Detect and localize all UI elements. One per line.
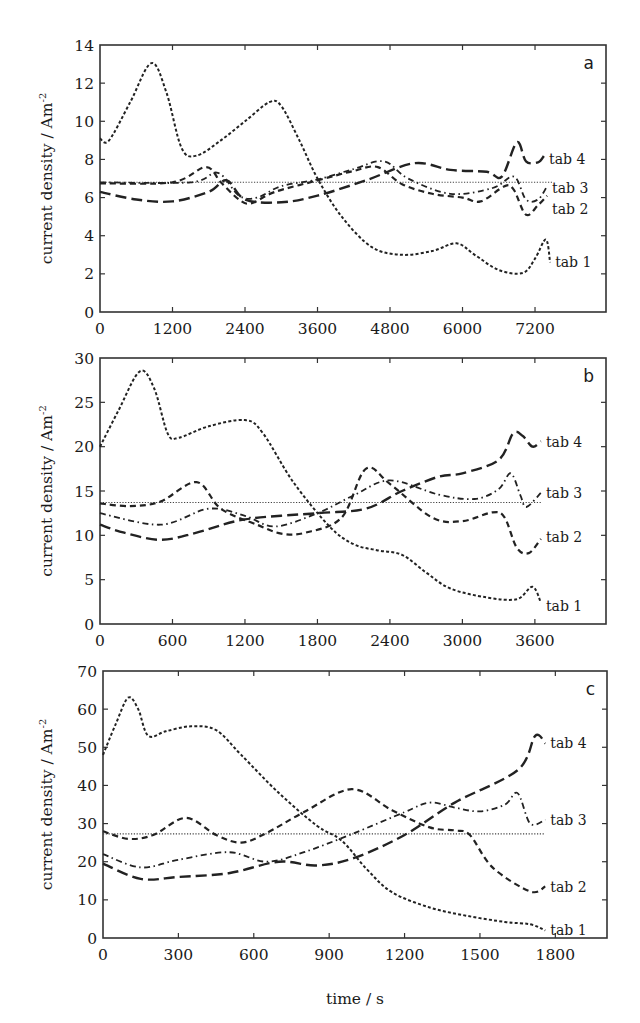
x-tick-label: 7200 <box>515 320 554 338</box>
x-tick-label: 900 <box>314 946 344 964</box>
series-label: tab 4 <box>550 735 586 751</box>
x-tick-label: 3600 <box>298 320 337 338</box>
x-tick-label: 0 <box>95 320 105 338</box>
x-tick-label: 1200 <box>153 320 192 338</box>
x-tick-label: 6000 <box>443 320 482 338</box>
series-tab-2 <box>100 467 541 553</box>
y-tick-label: 20 <box>77 853 97 871</box>
series-tab-1 <box>103 697 545 930</box>
y-tick-label: 10 <box>77 891 97 909</box>
series-label: tab 1 <box>550 922 586 938</box>
series-label: tab 1 <box>546 598 582 614</box>
series-label: tab 1 <box>555 254 591 270</box>
y-tick-label: 15 <box>74 483 94 501</box>
panel-b: 060012001800240030003600051015202530curr… <box>37 350 606 651</box>
y-tick-label: 30 <box>74 350 94 368</box>
y-tick-label: 14 <box>74 37 94 55</box>
y-tick-label: 8 <box>84 151 94 169</box>
y-tick-label: 6 <box>84 189 94 207</box>
y-tick-label: 10 <box>74 113 94 131</box>
plot-frame <box>100 358 606 624</box>
x-tick-label: 2400 <box>370 632 409 650</box>
x-axis-title: time / s <box>326 990 384 1008</box>
series-label: tab 3 <box>550 812 586 828</box>
series-label: tab 4 <box>546 434 582 450</box>
x-tick-label: 1800 <box>298 632 337 650</box>
y-tick-label: 70 <box>77 663 97 681</box>
y-tick-label: 0 <box>84 304 94 322</box>
y-axis-title: current density / Am-2 <box>37 719 56 891</box>
plot-frame <box>103 671 607 938</box>
panel-a: 012002400360048006000720002468101214curr… <box>37 37 606 339</box>
series-tab-4 <box>103 735 545 880</box>
series-label: tab 2 <box>550 879 586 895</box>
series-tab-1 <box>100 63 550 274</box>
y-tick-label: 0 <box>84 616 94 634</box>
y-tick-label: 25 <box>74 394 94 412</box>
figure: 012002400360048006000720002468101214curr… <box>0 0 640 1023</box>
y-tick-label: 5 <box>84 571 94 589</box>
y-tick-label: 4 <box>84 227 94 245</box>
x-tick-label: 3600 <box>515 632 554 650</box>
panel-letter: c <box>586 679 595 699</box>
x-tick-label: 1200 <box>225 632 264 650</box>
y-tick-label: 60 <box>77 701 97 719</box>
y-tick-label: 40 <box>77 777 97 795</box>
y-tick-label: 12 <box>74 75 94 93</box>
x-tick-label: 2400 <box>225 320 264 338</box>
series-tab-3 <box>103 793 545 868</box>
y-tick-label: 20 <box>74 438 94 456</box>
series-label: tab 2 <box>546 529 582 545</box>
panel-letter: a <box>584 53 594 73</box>
panel-c: 0300600900120015001800010203040506070cur… <box>37 663 607 965</box>
x-tick-label: 3000 <box>443 632 482 650</box>
y-tick-label: 2 <box>84 265 94 283</box>
y-tick-label: 30 <box>77 815 97 833</box>
x-tick-label: 1200 <box>385 946 424 964</box>
plot-frame <box>100 45 606 312</box>
x-tick-label: 600 <box>158 632 188 650</box>
x-tick-label: 0 <box>95 632 105 650</box>
y-axis-title: current density / Am-2 <box>37 93 56 265</box>
panel-letter: b <box>583 366 594 386</box>
series-label: tab 4 <box>549 151 585 167</box>
series-tab-1 <box>100 371 541 603</box>
y-tick-label: 50 <box>77 739 97 757</box>
series-tab-3 <box>100 161 547 202</box>
y-axis-title: current density / Am-2 <box>37 405 56 577</box>
x-tick-label: 4800 <box>370 320 409 338</box>
x-tick-label: 300 <box>164 946 194 964</box>
y-tick-label: 0 <box>87 930 97 948</box>
series-label: tab 3 <box>552 180 588 196</box>
series-tab-4 <box>100 142 544 203</box>
y-tick-label: 10 <box>74 527 94 545</box>
x-tick-label: 1500 <box>460 946 499 964</box>
x-tick-label: 1800 <box>536 946 575 964</box>
series-tab-4 <box>100 432 541 540</box>
x-tick-label: 0 <box>98 946 108 964</box>
series-label: tab 3 <box>546 485 582 501</box>
x-tick-label: 600 <box>239 946 269 964</box>
series-label: tab 2 <box>552 201 588 217</box>
